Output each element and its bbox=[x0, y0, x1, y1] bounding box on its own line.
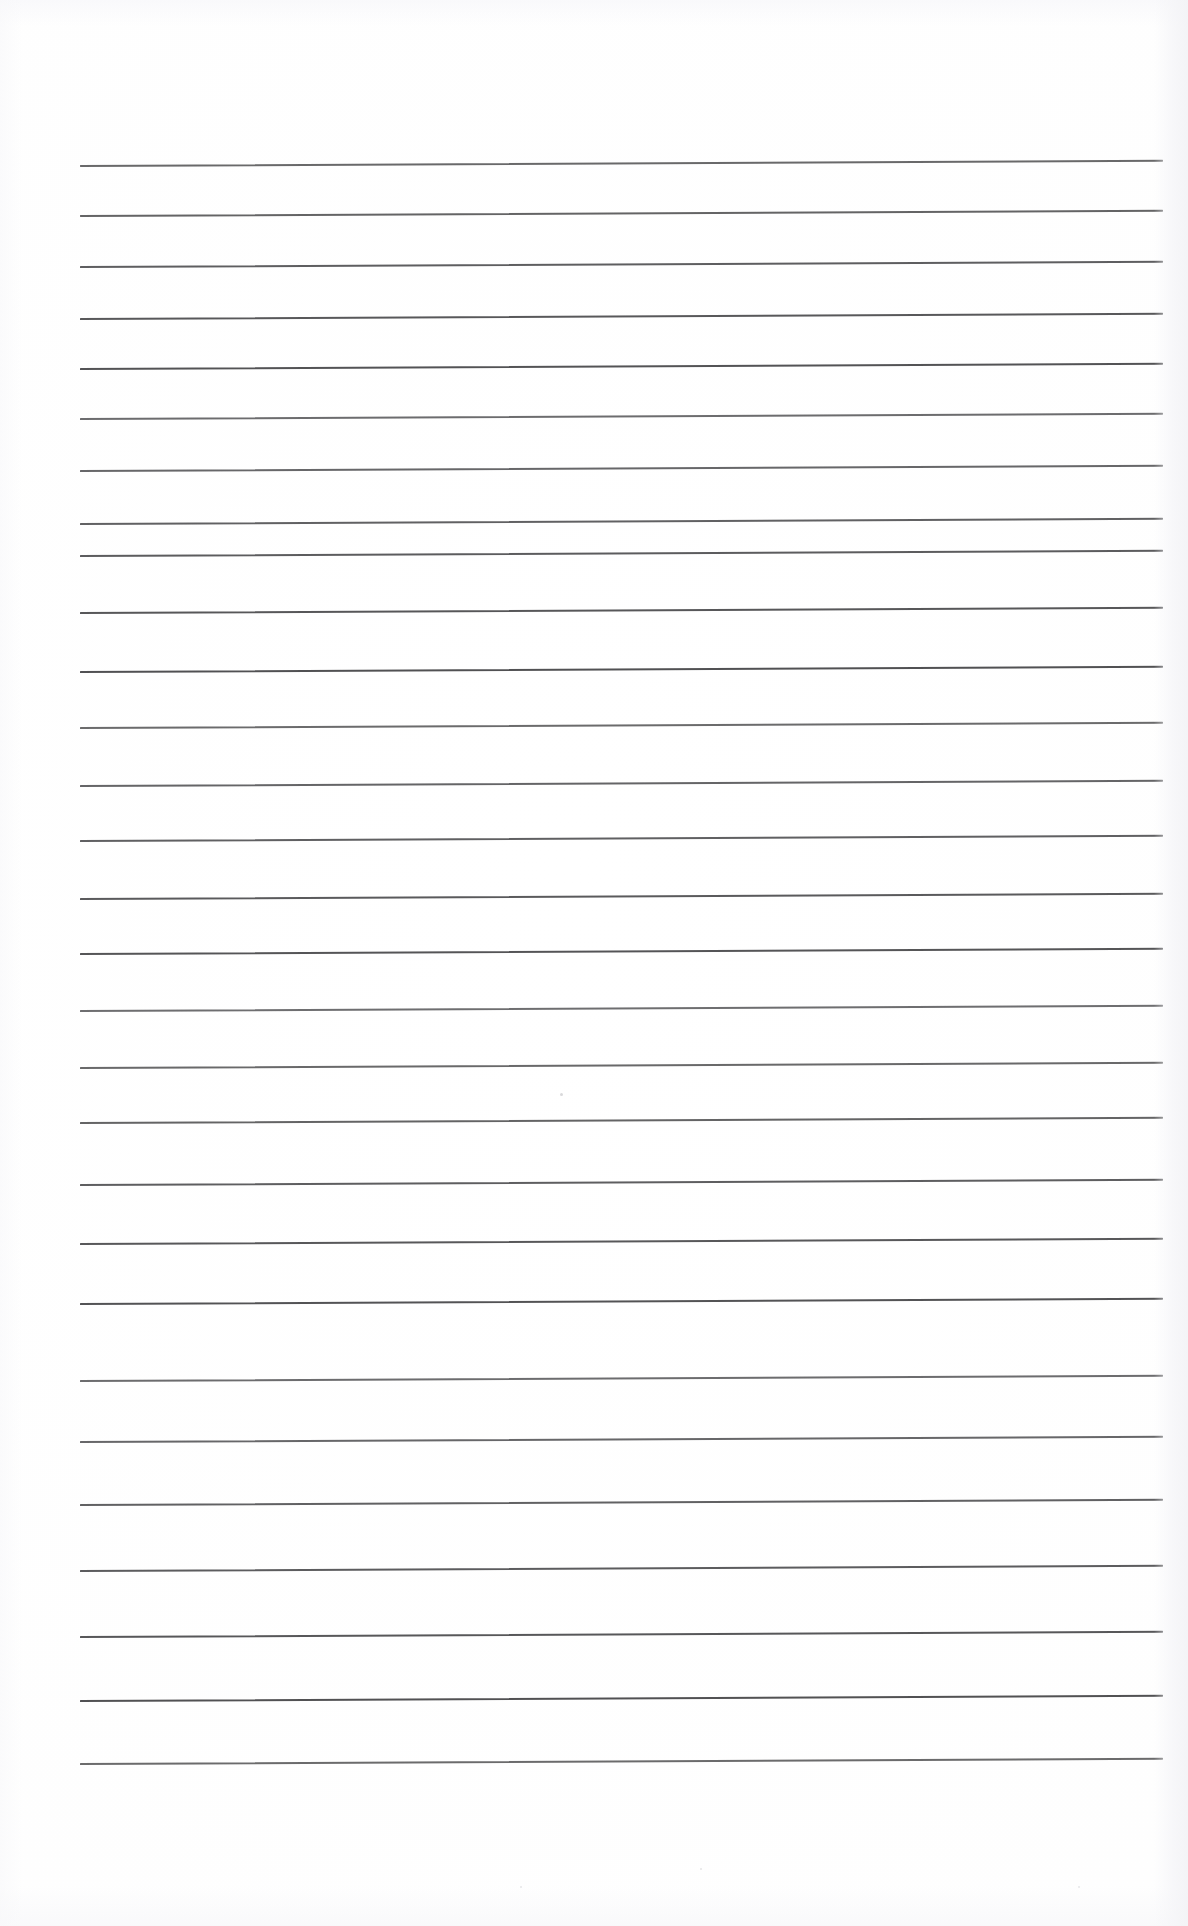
scan-edge-top-shadow bbox=[0, 0, 1188, 26]
ruled-line bbox=[80, 518, 1163, 525]
ruled-line bbox=[80, 1062, 1163, 1069]
ruled-line bbox=[80, 1005, 1163, 1012]
scan-edge-left-shadow bbox=[0, 0, 22, 1926]
ruled-line bbox=[80, 210, 1163, 217]
ruled-line bbox=[80, 413, 1163, 420]
scan-speck bbox=[700, 1868, 702, 1870]
scan-edge-bottom-shadow bbox=[0, 1886, 1188, 1926]
ruled-line bbox=[80, 780, 1163, 787]
ruled-line bbox=[80, 261, 1163, 268]
ruled-line bbox=[80, 465, 1163, 472]
ruled-line bbox=[80, 1631, 1163, 1638]
ruled-line bbox=[80, 1436, 1163, 1443]
ruled-line bbox=[80, 363, 1163, 370]
ruled-line bbox=[80, 1499, 1163, 1506]
ruled-line bbox=[80, 550, 1163, 557]
ruled-line bbox=[80, 313, 1163, 320]
ruled-line bbox=[80, 722, 1163, 729]
scan-edge-right-shadow bbox=[1154, 0, 1188, 1926]
ruled-line bbox=[80, 1375, 1163, 1382]
scanned-page bbox=[0, 0, 1188, 1926]
ruled-line bbox=[80, 1238, 1163, 1245]
ruled-line bbox=[80, 1179, 1163, 1186]
ruled-line bbox=[80, 893, 1163, 900]
scan-speck bbox=[520, 1886, 522, 1888]
ruled-line bbox=[80, 1758, 1163, 1765]
ruled-line bbox=[80, 160, 1163, 167]
ruled-line bbox=[80, 1565, 1163, 1572]
ruled-line bbox=[80, 607, 1163, 614]
scan-speck bbox=[1078, 1886, 1080, 1888]
ruled-line bbox=[80, 1298, 1163, 1305]
ruled-line bbox=[80, 666, 1163, 673]
ruled-line bbox=[80, 835, 1163, 842]
ruled-line bbox=[80, 1117, 1163, 1124]
ruled-line bbox=[80, 1695, 1163, 1702]
ruled-line bbox=[80, 948, 1163, 955]
scan-speck bbox=[560, 1093, 563, 1096]
